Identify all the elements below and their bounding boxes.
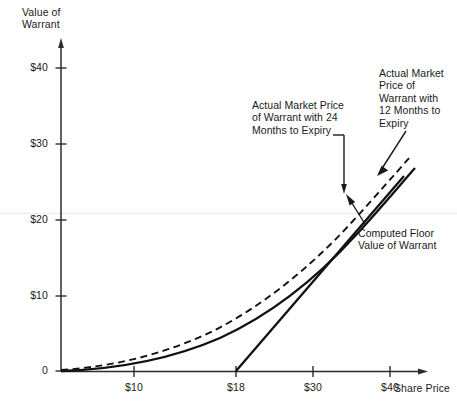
leader-12-month-arrowhead (377, 166, 388, 176)
y-tick-label-40: $40 (14, 61, 48, 73)
y-tick-label-30: $30 (14, 137, 48, 149)
y-axis-arrowhead (58, 38, 64, 48)
x-tick-label-10: $10 (114, 381, 154, 393)
x-tick-label-18: $18 (216, 381, 256, 393)
axis-group (58, 38, 428, 374)
y-tick-label-0: 0 (14, 364, 48, 376)
series-12-month-market-price (61, 168, 415, 371)
leader-24-month (333, 135, 347, 194)
warrant-value-chart: Value of Warrant Share Price $40 $30 $20… (0, 0, 457, 412)
leader-floor-arrowhead (346, 194, 355, 206)
series-computed-floor-value (236, 176, 404, 371)
leader-24-month-arrowhead (341, 184, 347, 194)
leader-12-month-shaft (381, 131, 406, 170)
x-tick-label-40: $40 (370, 381, 410, 393)
annotation-24-month-market-price: Actual Market Price of Warrant with 24 M… (252, 99, 344, 136)
y-tick-label-10: $10 (14, 289, 48, 301)
y-axis-title: Value of Warrant (22, 6, 61, 30)
y-tick-label-20: $20 (14, 213, 48, 225)
series-24-month-market-price (61, 157, 410, 370)
x-axis-arrowhead (418, 369, 428, 375)
chart-plot-area (0, 0, 457, 412)
x-tick-label-30: $30 (293, 381, 333, 393)
annotation-12-month-market-price: Actual Market Price of Warrant with 12 M… (379, 67, 444, 129)
annotation-computed-floor-value: Computed Floor Value of Warrant (358, 227, 436, 252)
leader-12-month (377, 131, 406, 176)
